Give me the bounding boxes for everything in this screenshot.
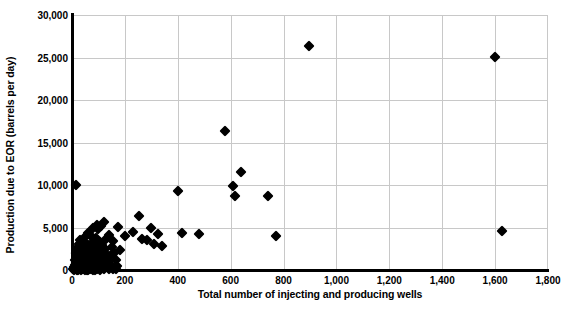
data-point: [172, 186, 183, 197]
gridline-horizontal: [72, 58, 548, 59]
gridline-vertical: [389, 15, 390, 270]
x-tick-label: 800: [275, 275, 292, 286]
y-tick-label: 15,000: [2, 137, 68, 148]
x-tick-label: 1,600: [483, 275, 508, 286]
x-axis-line: [71, 269, 549, 272]
y-tick-label: 0: [2, 265, 68, 276]
data-point: [113, 221, 124, 232]
y-axis-line: [71, 13, 74, 272]
data-point: [134, 211, 145, 222]
gridline-vertical: [336, 15, 337, 270]
x-tick-label: 600: [222, 275, 239, 286]
x-tick-label: 1,800: [535, 275, 560, 286]
x-axis-tick-labels: 02004006008001,0001,2001,4001,6001,800: [72, 275, 548, 289]
gridline-horizontal: [72, 100, 548, 101]
gridline-horizontal: [72, 185, 548, 186]
y-tick-label: 30,000: [2, 10, 68, 21]
x-tick-label: 0: [69, 275, 75, 286]
x-tick-label: 400: [169, 275, 186, 286]
data-point: [270, 230, 281, 241]
x-tick-label: 1,400: [430, 275, 455, 286]
data-point: [262, 191, 273, 202]
plot-area: [72, 15, 548, 270]
x-tick-label: 200: [117, 275, 134, 286]
data-point: [236, 167, 247, 178]
x-axis-title: Total number of injecting and producing …: [72, 288, 548, 300]
data-point: [220, 126, 231, 137]
gridline-horizontal: [72, 15, 548, 16]
gridline-horizontal: [72, 143, 548, 144]
data-point: [228, 180, 239, 191]
data-point: [193, 229, 204, 240]
y-tick-label: 5,000: [2, 222, 68, 233]
x-tick-label: 1,200: [377, 275, 402, 286]
data-point: [303, 40, 314, 51]
gridline-vertical: [284, 15, 285, 270]
gridline-vertical: [442, 15, 443, 270]
y-tick-label: 25,000: [2, 52, 68, 63]
y-tick-label: 20,000: [2, 95, 68, 106]
gridline-horizontal: [72, 228, 548, 229]
gridline-vertical: [231, 15, 232, 270]
y-axis-tick-labels: 05,00010,00015,00020,00025,00030,000: [0, 15, 68, 270]
x-tick-label: 1,000: [324, 275, 349, 286]
data-point: [489, 51, 500, 62]
y-tick-label: 10,000: [2, 180, 68, 191]
scatter-chart-figure: Production due to EOR (barrels per day) …: [0, 0, 567, 310]
plot-right-border: [547, 15, 548, 270]
